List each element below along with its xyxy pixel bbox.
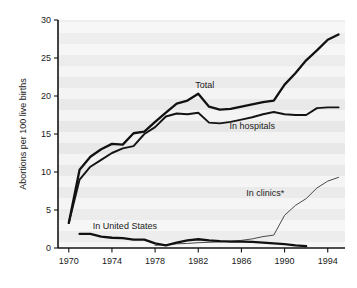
- x-tick-label: 1978: [145, 256, 165, 266]
- chart-figure: 051015202530 Abortions per 100 live birt…: [0, 0, 357, 288]
- x-tick-label: 1982: [188, 256, 208, 266]
- y-tick-label: 20: [41, 91, 51, 101]
- x-tick-label: 1994: [318, 256, 338, 266]
- x-tick-label: 1990: [275, 256, 295, 266]
- series-annotation-total: Total: [195, 80, 214, 90]
- series-annotation-in-united-states: In United States: [93, 221, 158, 231]
- y-tick-label: 0: [46, 243, 51, 253]
- series-annotation-in-clinics: In clinics*: [246, 188, 285, 198]
- plot-area-sheen: [58, 20, 345, 248]
- y-tick-label: 10: [41, 167, 51, 177]
- x-tick-label: 1970: [59, 256, 79, 266]
- x-tick-label: 1986: [231, 256, 251, 266]
- series-annotation-in-hospitals: In hospitals: [229, 121, 275, 131]
- line-chart: 051015202530 Abortions per 100 live birt…: [0, 0, 357, 288]
- y-tick-label: 15: [41, 129, 51, 139]
- y-tick-label: 25: [41, 53, 51, 63]
- y-tick-label: 5: [46, 205, 51, 215]
- y-axis-title: Abortions per 100 live births: [18, 78, 28, 190]
- x-tick-label: 1974: [102, 256, 122, 266]
- y-tick-label: 30: [41, 15, 51, 25]
